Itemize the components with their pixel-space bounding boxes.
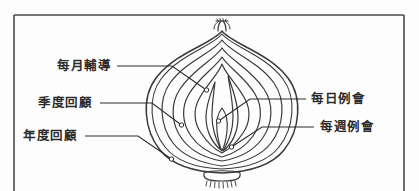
leader-quarterly-review xyxy=(100,103,184,127)
leader-weekly-meeting xyxy=(229,127,314,149)
label-quarterly-review: 季度回顧 xyxy=(38,97,92,110)
diagram-canvas: 每月輔導 季度回顧 年度回顧 每日例會 每週例會 xyxy=(0,0,419,191)
onion-layer-2 xyxy=(162,40,282,166)
onion-illustration xyxy=(146,19,298,189)
onion-neck xyxy=(214,19,230,32)
onion-outer-skin xyxy=(146,31,298,173)
label-weekly-meeting: 每週例會 xyxy=(320,121,374,134)
leader-daily-meeting xyxy=(216,99,306,123)
label-annual-review: 年度回顧 xyxy=(23,130,77,143)
label-monthly-coaching: 每月輔導 xyxy=(57,60,111,73)
label-daily-meeting: 每日例會 xyxy=(311,93,365,106)
